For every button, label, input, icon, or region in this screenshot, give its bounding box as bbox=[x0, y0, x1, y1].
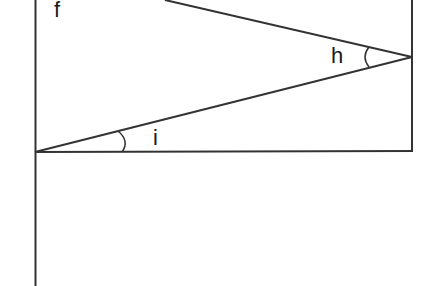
label-i: i bbox=[153, 125, 158, 150]
label-h: h bbox=[331, 43, 343, 68]
label-f: f bbox=[54, 0, 61, 22]
lower-slanted-line bbox=[35, 57, 412, 152]
geometry-diagram: f h i bbox=[0, 0, 421, 286]
angle-arc-h bbox=[365, 47, 369, 67]
upper-slanted-line bbox=[165, 0, 412, 57]
bottom-horizontal-line bbox=[35, 151, 413, 152]
angle-arc-i bbox=[118, 131, 125, 152]
